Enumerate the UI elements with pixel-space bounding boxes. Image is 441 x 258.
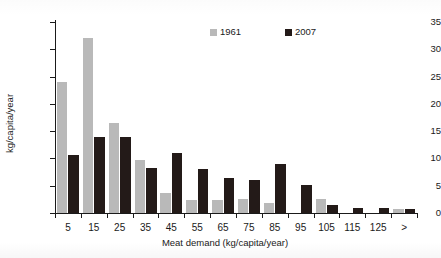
x-tick-95 (314, 213, 315, 218)
x-tick-75 (262, 213, 263, 218)
bar-2007-95 (301, 185, 312, 213)
x-tick-35 (158, 213, 159, 218)
legend-item-1961: 1961 (210, 27, 241, 37)
legend-label-2007: 2007 (295, 27, 316, 37)
bar-1961-5 (57, 82, 68, 213)
bars-layer (55, 22, 417, 213)
bar-2007-85 (275, 164, 286, 213)
bar-2007-65 (224, 178, 235, 213)
x-tick-55 (210, 213, 211, 218)
bar-2007-105 (327, 205, 338, 213)
bar-chart: 05101520253035 kg/capita/year 5152535455… (0, 0, 441, 258)
bar-1961-25 (109, 123, 120, 213)
bar-1961-45 (160, 193, 171, 213)
legend-swatch-icon-2007 (285, 29, 292, 36)
bar-1961-55 (186, 200, 197, 213)
bar-1961-105 (316, 199, 327, 213)
bar-2007-15 (94, 137, 105, 213)
bar-1961-15 (83, 38, 94, 213)
x-tick-115 (365, 213, 366, 218)
bar-1961-75 (238, 199, 249, 213)
legend-item-2007: 2007 (285, 27, 316, 37)
legend-swatch-icon-1961 (210, 29, 217, 36)
y-axis-label-wrap: kg/capita/year (0, 72, 14, 182)
bar-2007-45 (172, 153, 183, 213)
bar-2007-5 (68, 155, 79, 213)
bar-1961-35 (135, 160, 146, 213)
x-tick-105 (339, 213, 340, 218)
x-tick-> (417, 213, 418, 218)
x-tick-85 (288, 213, 289, 218)
bar-2007-75 (249, 180, 260, 213)
y-axis-label: kg/capita/year (4, 69, 15, 179)
legend-label-1961: 1961 (220, 27, 241, 37)
x-tick-15 (107, 213, 108, 218)
x-tick-125 (391, 213, 392, 218)
bar-1961-65 (212, 200, 223, 213)
bar-2007-> (405, 209, 416, 213)
bar-2007-25 (120, 137, 131, 213)
x-tick-45 (184, 213, 185, 218)
bar-1961-> (393, 209, 404, 213)
bar-2007-35 (146, 168, 157, 213)
x-tick-origin (55, 213, 56, 218)
x-tick-65 (236, 213, 237, 218)
x-tick-5 (81, 213, 82, 218)
bar-2007-115 (353, 208, 364, 213)
x-axis-label: Meat demand (kg/capita/year) (120, 237, 330, 248)
x-tick-label->: > (389, 222, 419, 233)
x-tick-25 (133, 213, 134, 218)
bar-2007-125 (379, 208, 390, 213)
bar-1961-85 (264, 203, 275, 213)
bar-2007-55 (198, 169, 209, 213)
